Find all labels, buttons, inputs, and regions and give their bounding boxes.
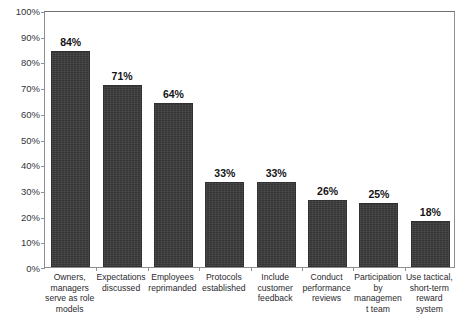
x-axis-tick — [302, 267, 303, 271]
bar-group: 26% — [302, 12, 353, 267]
chart-title — [0, 0, 465, 3]
y-axis-tick — [41, 89, 45, 90]
x-axis-category-label: Employees reprimanded — [148, 272, 197, 293]
bar-value-label: 18% — [405, 206, 456, 218]
bar[interactable] — [257, 182, 296, 267]
bar-series: 84%71%64%33%33%26%25%18% — [45, 12, 454, 267]
y-axis-tick-label: 10% — [0, 237, 40, 248]
bar[interactable] — [411, 221, 450, 267]
x-axis-tick — [148, 267, 149, 271]
x-axis-category-label: Include customer feedback — [251, 272, 300, 304]
y-axis-tick — [41, 166, 45, 167]
x-axis-category-label: Owners, managers serve as role models — [45, 272, 94, 314]
y-axis-tick — [41, 12, 45, 13]
bar[interactable] — [51, 51, 90, 267]
bar-group: 18% — [405, 12, 456, 267]
y-axis-tick — [41, 63, 45, 64]
bar[interactable] — [359, 203, 398, 267]
bar-value-label: 64% — [148, 88, 199, 100]
bar-group: 64% — [148, 12, 199, 267]
bar-group: 84% — [45, 12, 96, 267]
bar-value-label: 33% — [251, 167, 302, 179]
y-axis-tick-label: 100% — [0, 6, 40, 17]
y-axis-tick-label: 0% — [0, 263, 40, 274]
bar[interactable] — [154, 103, 193, 267]
x-axis-category-label: Conduct performance reviews — [302, 272, 351, 304]
y-axis-tick — [41, 192, 45, 193]
plot-area: 84%71%64%33%33%26%25%18% — [44, 11, 455, 268]
y-axis-tick-label: 20% — [0, 211, 40, 222]
y-axis-tick — [41, 141, 45, 142]
y-axis-tick-label: 50% — [0, 134, 40, 145]
y-axis-tick-label: 30% — [0, 185, 40, 196]
y-axis-tick-label: 70% — [0, 83, 40, 94]
x-axis-tick — [96, 267, 97, 271]
x-axis-tick — [405, 267, 406, 271]
x-axis-category-label: Protocols established — [199, 272, 248, 293]
y-axis-tick-label: 60% — [0, 108, 40, 119]
x-axis-category-label: Expectations discussed — [96, 272, 145, 293]
y-axis-tick — [41, 38, 45, 39]
bar-value-label: 26% — [302, 185, 353, 197]
x-axis-tick — [353, 267, 354, 271]
y-axis-tick — [41, 243, 45, 244]
bar-value-label: 33% — [199, 167, 250, 179]
x-axis-tick — [251, 267, 252, 271]
x-axis-category-label: Use tactical, short-term reward system — [405, 272, 454, 314]
bar-group: 71% — [96, 12, 147, 267]
x-axis-labels: Owners, managers serve as role modelsExp… — [44, 272, 455, 320]
bar-value-label: 71% — [96, 70, 147, 82]
y-axis-tick-label: 80% — [0, 57, 40, 68]
y-axis-tick — [41, 115, 45, 116]
bar-group: 33% — [251, 12, 302, 267]
bar-group: 25% — [353, 12, 404, 267]
bar-chart: 100%90%80%70%60%50%40%30%20%10%0% 84%71%… — [0, 0, 465, 320]
bar-value-label: 84% — [45, 36, 96, 48]
x-axis-tick — [199, 267, 200, 271]
bar-value-label: 25% — [353, 188, 404, 200]
y-axis-tick — [41, 218, 45, 219]
bar[interactable] — [103, 85, 142, 267]
y-axis-labels: 100%90%80%70%60%50%40%30%20%10%0% — [0, 11, 40, 268]
bar-group: 33% — [199, 12, 250, 267]
y-axis-tick — [41, 268, 45, 269]
bar[interactable] — [205, 182, 244, 267]
x-axis-category-label: Participation by management team — [353, 272, 402, 314]
y-axis-tick-label: 40% — [0, 160, 40, 171]
y-axis-tick-label: 90% — [0, 31, 40, 42]
bar[interactable] — [308, 200, 347, 267]
